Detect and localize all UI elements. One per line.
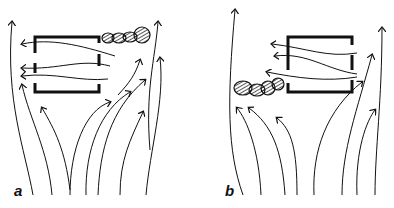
airflow-diagram-a — [0, 0, 197, 208]
panel-label-a: a — [14, 182, 22, 199]
smoke-plume — [102, 27, 150, 43]
airflow-diagram-b — [197, 0, 394, 208]
panel-label-b: b — [225, 182, 234, 199]
enclosure-box — [35, 37, 99, 92]
panel-b: b — [197, 0, 394, 208]
enclosure-box — [288, 37, 352, 92]
smoke-plume — [234, 78, 284, 96]
panel-a: a — [0, 0, 197, 208]
